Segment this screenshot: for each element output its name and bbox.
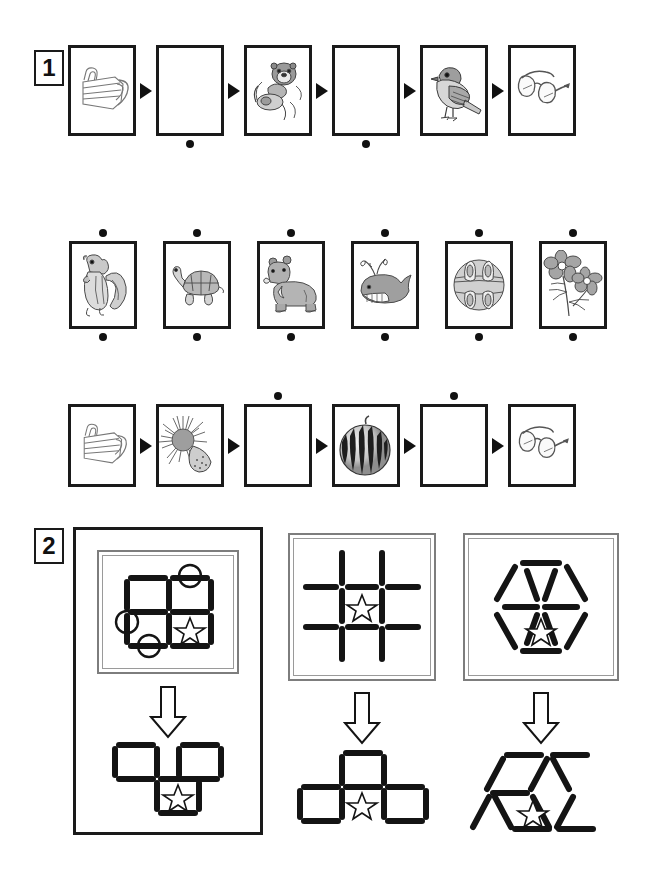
answer-dot [475,229,483,237]
picture-card-blank[interactable] [156,45,224,136]
star-marker [163,785,193,811]
down-arrow-icon [149,685,187,740]
picture-card-blank[interactable] [244,404,312,487]
picture-card[interactable] [68,45,136,136]
answer-dot [381,229,389,237]
answer-dot [99,229,107,237]
picture-card[interactable] [420,45,488,136]
sequence-arrow-icon [404,438,416,454]
section-number-1: 1 [34,50,64,86]
answer-dot [475,333,483,341]
answer-dot [287,333,295,341]
picture-card[interactable] [68,404,136,487]
flower-icon [543,250,603,320]
sparrow-icon [425,60,483,122]
answer-dot [193,333,201,341]
eyeglasses-icon [512,65,572,117]
face-mask-icon [73,417,131,475]
ornament-icon [451,257,507,313]
down-arrow-icon [343,691,381,746]
sea-otter-icon [248,58,308,124]
answer-dot [381,333,389,341]
sequence-row-3 [68,404,576,487]
star-marker [347,793,377,819]
matchstick-panel-2[interactable] [288,533,440,829]
bear-icon [260,254,322,316]
answer-dot [450,392,458,400]
sea-urchin-icon [159,416,221,476]
picture-card[interactable] [69,241,137,329]
watermelon-icon [336,414,396,478]
sequence-arrow-icon [404,83,416,99]
matchstick-hash-grid[interactable] [288,533,436,681]
answer-dot [274,392,282,400]
sequence-arrow-icon [316,83,328,99]
sequence-row-1 [68,45,576,136]
star-marker [175,618,205,644]
turtle-icon [167,257,227,313]
matchstick-panel-1[interactable] [73,527,263,835]
sequence-arrow-icon [228,438,240,454]
picture-card-blank[interactable] [332,45,400,136]
star-marker [347,595,377,621]
picture-card[interactable] [508,45,576,136]
matchstick-result-1[interactable] [97,739,239,829]
picture-card[interactable] [508,404,576,487]
matchstick-panel-3[interactable] [463,533,623,829]
matchstick-hexagon[interactable] [463,533,619,681]
picture-card[interactable] [445,241,513,329]
section-number-2: 2 [34,528,64,564]
picture-card[interactable] [244,45,312,136]
picture-card[interactable] [156,404,224,487]
down-arrow-icon [522,691,560,746]
picture-card[interactable] [257,241,325,329]
eyeglasses-icon [512,421,572,471]
sequence-arrow-icon [140,438,152,454]
picture-card[interactable] [163,241,231,329]
answer-dot [186,140,194,148]
star-marker [518,801,548,827]
worksheet-page: 1 [0,0,653,892]
answer-dot [362,140,370,148]
picture-card-blank[interactable] [420,404,488,487]
sequence-arrow-icon [140,83,152,99]
answer-dot [287,229,295,237]
sequence-arrow-icon [316,438,328,454]
sequence-row-2 [69,241,607,329]
matchstick-result-2[interactable] [288,747,436,831]
sequence-arrow-icon [492,438,504,454]
picture-card[interactable] [539,241,607,329]
answer-dot [193,229,201,237]
picture-card[interactable] [351,241,419,329]
matchstick-result-3[interactable] [463,745,619,835]
chipmunk-icon [74,250,132,320]
face-mask-icon [73,60,131,122]
matchstick-grid-2x2[interactable] [97,550,239,674]
answer-dot [99,333,107,341]
sequence-arrow-icon [228,83,240,99]
picture-card[interactable] [332,404,400,487]
sequence-arrow-icon [492,83,504,99]
answer-dot [569,229,577,237]
answer-dot [569,333,577,341]
whale-icon [355,257,415,313]
